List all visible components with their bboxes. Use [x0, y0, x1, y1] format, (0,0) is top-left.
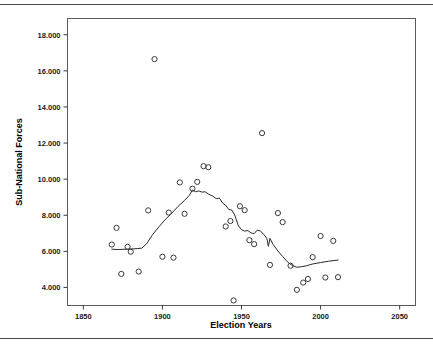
figure-page: 4.0006.0008.00010.00012.00014.00016.0001…: [0, 0, 433, 347]
x-axis-ticks: 18501900195020002050: [75, 306, 408, 321]
x-tick-label: 1900: [154, 312, 171, 321]
x-tick-label: 1850: [75, 312, 92, 321]
y-tick-label: 14.000: [38, 103, 61, 112]
page-rule-bottom: [0, 338, 433, 339]
y-tick-label: 8.000: [42, 211, 61, 220]
y-tick-label: 16.000: [38, 67, 61, 76]
plot-frame: [68, 19, 416, 306]
y-tick-label: 10.000: [38, 175, 61, 184]
y-axis-ticks: 4.0006.0008.00010.00012.00014.00016.0001…: [38, 31, 68, 293]
y-tick-label: 6.000: [42, 247, 61, 256]
y-tick-label: 18.000: [38, 31, 61, 40]
chart-svg: 4.0006.0008.00010.00012.00014.00016.0001…: [0, 10, 433, 335]
scatter-chart: 4.0006.0008.00010.00012.00014.00016.0001…: [0, 10, 433, 335]
y-tick-label: 12.000: [38, 139, 61, 148]
y-tick-label: 4.000: [42, 283, 61, 292]
y-axis-title: Sub-National Forces: [14, 118, 24, 206]
x-axis-title: Election Years: [210, 320, 271, 330]
x-tick-label: 2050: [391, 312, 408, 321]
x-tick-label: 2000: [312, 312, 329, 321]
page-rule-top: [0, 4, 433, 5]
